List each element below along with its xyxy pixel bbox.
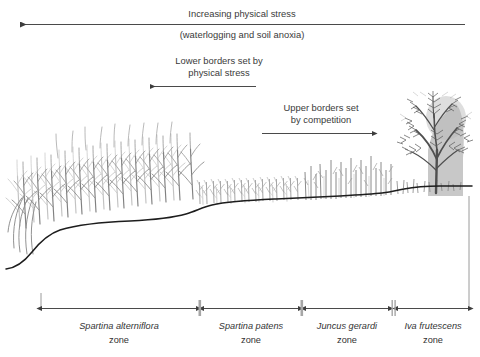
figure-canvas: Increasing physical stress (waterlogging…	[0, 0, 480, 357]
zone-separator-1	[199, 300, 202, 316]
zone-label-spartina-alterniflora-species: Spartina alterniflora	[79, 321, 159, 331]
zone-label-spartina-alterniflora-suffix: zone	[109, 335, 129, 345]
zone-labels: Spartina alterniflora zone Spartina pate…	[79, 321, 462, 345]
lower-borders-label-line1: Lower borders set by	[175, 55, 263, 66]
zone-label-spartina-patens-suffix: zone	[241, 335, 261, 345]
zone-separator-2	[301, 300, 304, 316]
zone-label-iva-frutescens-suffix: zone	[423, 335, 443, 345]
zone-label-spartina-patens-species: Spartina patens	[219, 321, 284, 331]
lower-borders-label-line2: physical stress	[188, 67, 250, 78]
zone-label-juncus-gerardi-species: Juncus gerardi	[316, 321, 378, 331]
zone-separator-3a	[392, 300, 393, 316]
marsh-zonation-diagram: Increasing physical stress (waterlogging…	[0, 0, 480, 357]
upper-borders-label-line1: Upper borders set	[283, 102, 358, 113]
top-axis-subtitle: (waterlogging and soil anoxia)	[180, 29, 305, 40]
zone-separator-3b	[394, 300, 395, 316]
zone-bracket-group	[41, 196, 469, 316]
zone-label-juncus-gerardi-suffix: zone	[337, 335, 357, 345]
zone-label-iva-frutescens-species: Iva frutescens	[404, 321, 462, 331]
upper-borders-label-line2: by competition	[291, 114, 351, 125]
top-axis-title: Increasing physical stress	[188, 8, 296, 19]
marsh-ground-profile	[6, 186, 472, 269]
vegetation-spartina-alterniflora	[6, 122, 204, 254]
